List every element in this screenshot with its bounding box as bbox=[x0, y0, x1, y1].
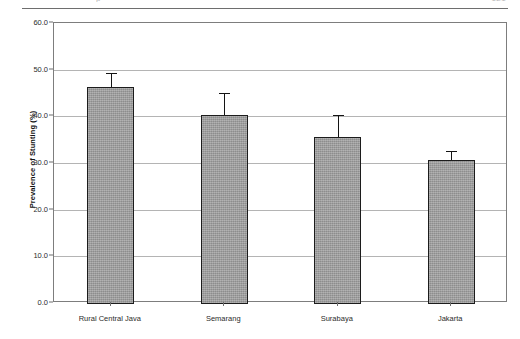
y-axis-tick-label: 60.0 bbox=[8, 18, 48, 27]
bar bbox=[87, 87, 134, 304]
y-axis-tick-mark bbox=[49, 22, 53, 23]
error-bar-cap bbox=[106, 73, 117, 74]
y-axis-tick-mark bbox=[49, 302, 53, 303]
y-axis-tick-mark bbox=[49, 255, 53, 256]
x-axis-tick-label: Jakarta bbox=[438, 314, 463, 323]
x-axis-tick-label: Rural Central Java bbox=[79, 314, 141, 323]
y-axis-tick-mark bbox=[49, 115, 53, 116]
y-axis-tick-mark bbox=[49, 68, 53, 69]
x-axis-tick-mark bbox=[110, 302, 111, 306]
gridline bbox=[54, 70, 506, 71]
x-axis-tick-mark bbox=[223, 302, 224, 306]
y-axis-tick-label: 50.0 bbox=[8, 64, 48, 73]
bar bbox=[314, 137, 361, 304]
y-axis-tick-label: 40.0 bbox=[8, 111, 48, 120]
y-axis-tick-label: 30.0 bbox=[8, 158, 48, 167]
y-axis-tick-mark bbox=[49, 208, 53, 209]
y-axis-tick-label: 10.0 bbox=[8, 251, 48, 260]
error-bar-stem bbox=[224, 93, 225, 115]
error-bar-cap bbox=[333, 115, 344, 116]
y-axis-tick-label: 0.0 bbox=[8, 298, 48, 307]
error-bar-stem bbox=[111, 73, 112, 87]
error-bar-cap bbox=[446, 151, 457, 152]
x-axis-tick-label: Surabaya bbox=[321, 314, 353, 323]
x-axis-tick-label: Semarang bbox=[206, 314, 241, 323]
error-bar-stem bbox=[338, 115, 339, 137]
plot-area bbox=[53, 22, 507, 302]
x-axis-tick-mark bbox=[450, 302, 451, 306]
bar bbox=[428, 160, 475, 304]
y-axis-tick-label: 20.0 bbox=[8, 204, 48, 213]
y-axis-tick-mark bbox=[49, 162, 53, 163]
error-bar-cap bbox=[219, 93, 230, 94]
error-bar-stem bbox=[451, 151, 452, 160]
bar bbox=[201, 115, 248, 304]
bar-chart-figure: Prevalence of Stunting (%) 0.010.020.030… bbox=[0, 0, 520, 339]
x-axis-tick-mark bbox=[337, 302, 338, 306]
